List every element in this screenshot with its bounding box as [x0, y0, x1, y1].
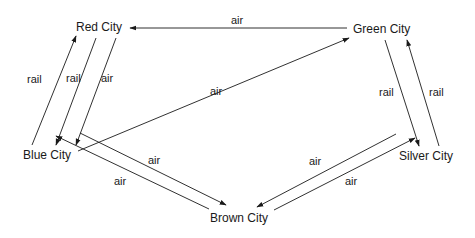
edge-red-to-blue-air — [76, 38, 116, 145]
edge-label-blue-green: air — [210, 85, 223, 97]
edge-red-to-blue-rail — [56, 38, 96, 145]
city-node-red: Red City — [76, 20, 122, 34]
edge-label-green-red: air — [231, 14, 244, 26]
edge-label-blue-red-rail: rail — [27, 73, 42, 85]
edge-label-silver-green-rail: rail — [429, 86, 444, 98]
edge-label-blue-brown: air — [148, 154, 161, 166]
city-node-green: Green City — [353, 22, 410, 36]
edge-brown-to-silver-air — [274, 138, 415, 210]
city-transport-diagram: Red City Green City Blue City Silver Cit… — [0, 0, 475, 238]
city-node-silver: Silver City — [399, 149, 453, 163]
edge-blue-to-brown-air — [80, 133, 226, 205]
edge-label-brown-blue: air — [114, 175, 127, 187]
edge-blue-to-red-rail — [32, 36, 76, 145]
edge-silver-to-brown-air — [257, 134, 396, 207]
edge-label-brown-silver: air — [345, 175, 358, 187]
edge-label-red-blue-air: air — [101, 72, 114, 84]
city-node-blue: Blue City — [23, 148, 71, 162]
edge-label-silver-brown: air — [309, 155, 322, 167]
city-node-brown: Brown City — [210, 211, 268, 225]
edge-label-green-silver-rail: rail — [379, 86, 394, 98]
edge-label-red-blue-rail: rail — [66, 72, 81, 84]
edge-brown-to-blue-air — [56, 136, 209, 209]
